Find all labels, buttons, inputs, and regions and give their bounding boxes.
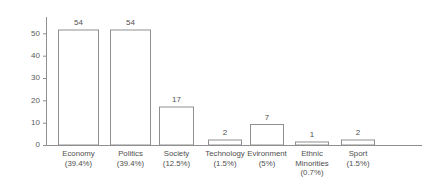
category-name-economy: Economy <box>49 149 109 159</box>
category-percent-economy: (39.4%) <box>49 159 109 169</box>
value-label-technology: 2 <box>209 129 242 137</box>
y-tick-label-10: 10 <box>16 119 40 127</box>
category-label-economy: Economy (39.4%) <box>49 149 109 168</box>
bar-sport <box>342 140 375 145</box>
category-percent-ethnic-minorities: (0.7%) <box>283 168 341 178</box>
value-label-ethnic-minorities: 1 <box>296 131 329 139</box>
bar-series <box>59 30 375 145</box>
category-name-sport: Sport <box>328 149 388 159</box>
value-label-politics: 54 <box>111 19 151 27</box>
category-label-sport: Sport (1.5%) <box>328 149 388 168</box>
bar-politics <box>111 30 151 145</box>
y-tick-label-30: 30 <box>16 74 40 82</box>
bar-economy <box>59 30 99 145</box>
category-percent-sport: (1.5%) <box>328 159 388 169</box>
y-tick-label-50: 50 <box>16 30 40 38</box>
y-tick-label-40: 40 <box>16 52 40 60</box>
y-tick-label-20: 20 <box>16 97 40 105</box>
bar-chart: 0 10 20 30 40 50 54 54 17 2 7 1 2 Econom… <box>0 0 427 186</box>
y-axis-ticks <box>43 34 47 146</box>
value-label-economy: 54 <box>59 19 99 27</box>
value-label-society: 17 <box>160 96 194 104</box>
bar-society <box>160 107 194 145</box>
bar-evironment <box>251 125 284 146</box>
y-tick-label-0: 0 <box>16 141 40 149</box>
value-label-evironment: 7 <box>251 114 284 122</box>
bar-technology <box>209 140 242 145</box>
value-label-sport: 2 <box>342 129 375 137</box>
bar-ethnic-minorities <box>296 142 329 145</box>
